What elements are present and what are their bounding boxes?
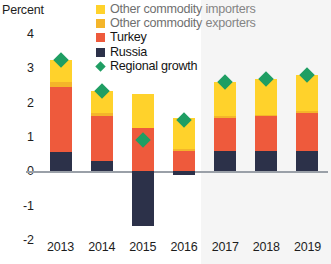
x-axis-tick-label: 2016 [170,240,197,254]
bar-segment [255,116,277,150]
bar-segment [296,113,318,151]
bar-segment [50,82,72,87]
y-axis-tick-label: 1 [8,131,34,143]
y-axis-tick-label: -1 [8,200,34,212]
bar-segment [50,152,72,171]
bar-segment [91,113,113,116]
x-axis-tick-label: 2018 [253,240,280,254]
bar-segment [173,171,195,174]
bar-segment [296,151,318,172]
stacked-bar[interactable] [255,34,277,240]
x-axis-tick-labels: 2013201420152016201720182019 [40,240,328,260]
x-axis-tick-label: 2017 [212,240,239,254]
stacked-bar[interactable] [214,34,236,240]
bar-segment [132,94,154,128]
bar-segment [255,115,277,117]
y-axis-tick-labels: 43210-1-2 [6,34,34,240]
bar-segment [91,161,113,171]
x-axis-tick-label: 2019 [294,240,321,254]
legend-swatch-square-icon [96,5,105,14]
y-axis-tick-label: -2 [8,234,34,246]
bar-segment [132,171,154,226]
bar-segment [214,116,236,118]
stacked-bar[interactable] [91,34,113,240]
bar-segment [173,149,195,151]
bar-segment [296,111,318,113]
y-axis-tick-label: 2 [8,97,34,109]
bar-segment [173,151,195,172]
bar-segment [214,118,236,151]
x-axis-tick-label: 2014 [88,240,115,254]
x-axis-tick-label: 2013 [47,240,74,254]
legend-swatch-square-icon [96,19,105,28]
bar-segment [91,116,113,161]
bar-segment [50,87,72,152]
bar-segment [255,151,277,172]
x-axis-tick-label: 2015 [129,240,156,254]
plot-area [40,34,328,240]
bar-segment [214,151,236,172]
y-axis-title: Percent [2,3,44,17]
stacked-bar[interactable] [173,34,195,240]
y-axis-tick-label: 4 [8,28,34,40]
stacked-bar[interactable] [296,34,318,240]
y-axis-tick-label: 3 [8,62,34,74]
